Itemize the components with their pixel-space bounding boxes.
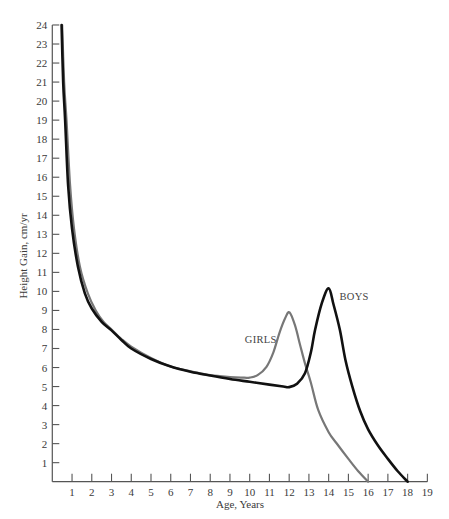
y-tick-label: 22 xyxy=(36,57,47,69)
y-tick-label: 12 xyxy=(36,247,47,259)
x-tick-label: 10 xyxy=(244,486,256,498)
y-tick-label: 15 xyxy=(36,190,48,202)
x-tick-label: 11 xyxy=(264,486,275,498)
y-axis: 123456789101112131415161718192021222324 xyxy=(36,19,59,482)
y-tick-label: 19 xyxy=(36,114,48,126)
y-tick-label: 14 xyxy=(36,209,48,221)
x-tick-label: 19 xyxy=(422,486,434,498)
y-tick-label: 13 xyxy=(36,228,48,240)
x-tick-label: 8 xyxy=(207,486,213,498)
x-tick-label: 14 xyxy=(323,486,335,498)
y-tick-label: 16 xyxy=(36,171,48,183)
x-tick-label: 4 xyxy=(129,486,135,498)
x-tick-label: 17 xyxy=(382,486,394,498)
x-tick-label: 12 xyxy=(284,486,295,498)
x-tick-label: 2 xyxy=(89,486,95,498)
y-tick-label: 23 xyxy=(36,38,48,50)
x-tick-label: 7 xyxy=(188,486,194,498)
label-girls: GIRLS xyxy=(245,334,277,345)
series-layer xyxy=(62,25,408,482)
x-tick-label: 16 xyxy=(363,486,375,498)
y-tick-label: 1 xyxy=(42,457,48,469)
y-tick-label: 20 xyxy=(36,95,48,107)
y-tick-label: 17 xyxy=(36,152,48,164)
y-tick-label: 7 xyxy=(42,342,48,354)
x-tick-label: 18 xyxy=(402,486,414,498)
x-tick-label: 9 xyxy=(227,486,233,498)
series-line-boys xyxy=(62,25,408,482)
y-tick-label: 11 xyxy=(37,266,48,278)
annotation-layer: GIRLSBOYS xyxy=(245,291,369,345)
x-axis: 12345678910111213141516171819 xyxy=(52,474,433,498)
y-tick-label: 24 xyxy=(36,19,48,31)
x-tick-label: 5 xyxy=(148,486,154,498)
label-boys: BOYS xyxy=(340,291,369,302)
x-tick-label: 15 xyxy=(343,486,355,498)
y-tick-label: 21 xyxy=(36,76,47,88)
x-tick-label: 3 xyxy=(109,486,115,498)
y-tick-label: 9 xyxy=(42,304,48,316)
y-tick-label: 5 xyxy=(42,381,48,393)
y-tick-label: 6 xyxy=(42,362,48,374)
y-axis-title: Height Gain, cm/yr xyxy=(17,213,29,299)
y-tick-label: 18 xyxy=(36,133,48,145)
series-line-girls xyxy=(62,25,368,482)
x-axis-title: Age, Years xyxy=(216,498,264,510)
y-tick-label: 2 xyxy=(42,438,48,450)
y-tick-label: 4 xyxy=(42,400,48,412)
y-tick-label: 10 xyxy=(36,285,48,297)
x-tick-label: 6 xyxy=(168,486,174,498)
y-tick-label: 3 xyxy=(42,419,48,431)
x-tick-label: 13 xyxy=(303,486,315,498)
height-velocity-chart: 123456789101112131415161718192021222324 … xyxy=(0,0,449,519)
y-tick-label: 8 xyxy=(42,323,48,335)
x-tick-label: 1 xyxy=(69,486,75,498)
